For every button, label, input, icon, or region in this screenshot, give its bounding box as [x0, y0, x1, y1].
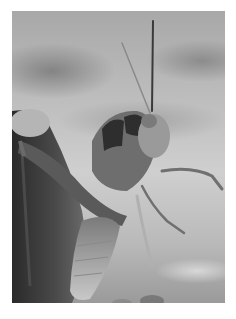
head: [138, 114, 170, 158]
grasshopper-illustration: [12, 11, 225, 303]
antennae: [122, 21, 153, 113]
grasshopper-photo: [12, 11, 225, 303]
legs: [137, 169, 222, 266]
